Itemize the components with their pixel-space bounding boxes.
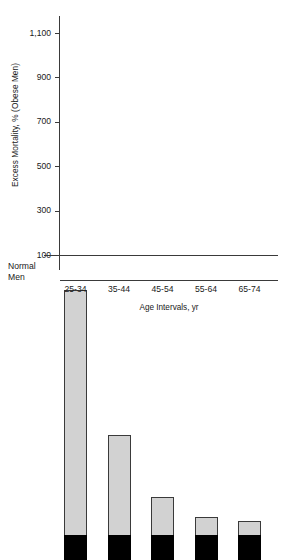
x-tick-label-25-34: 25-34 <box>54 284 98 294</box>
x-tick-label-65-74: 65-74 <box>228 284 272 294</box>
x-tick-label-45-54: 45-54 <box>141 284 185 294</box>
y-tick-label-900: 900 <box>5 73 51 82</box>
bar-normal-men-reference[interactable] <box>64 535 87 560</box>
x-tick-label-35-44: 35-44 <box>97 284 141 294</box>
bar-excess-mortality[interactable] <box>195 517 218 536</box>
bar-normal-men-reference[interactable] <box>195 535 218 560</box>
y-tick-label-300: 300 <box>5 206 51 215</box>
bar-normal-men-reference[interactable] <box>151 535 174 560</box>
x-axis-line <box>60 280 278 281</box>
bar-excess-mortality[interactable] <box>64 290 87 536</box>
bar-normal-men-reference[interactable] <box>108 535 131 560</box>
y-tick-label-500: 500 <box>5 162 51 171</box>
y-tick-label-1100: 1,100 <box>5 29 51 38</box>
bar-excess-mortality[interactable] <box>238 521 261 536</box>
normal-men-line-2: Men <box>8 272 52 283</box>
bar-excess-mortality[interactable] <box>151 497 174 536</box>
plot-area <box>60 0 284 280</box>
x-tick-label-55-64: 55-64 <box>184 284 228 294</box>
y-tick-label-700: 700 <box>5 117 51 126</box>
normal-men-label: Normal Men <box>8 261 52 282</box>
x-axis-title: Age Intervals, yr <box>60 303 278 313</box>
bar-excess-mortality[interactable] <box>108 435 131 536</box>
normal-men-line-1: Normal <box>8 261 52 272</box>
bar-normal-men-reference[interactable] <box>238 535 261 560</box>
